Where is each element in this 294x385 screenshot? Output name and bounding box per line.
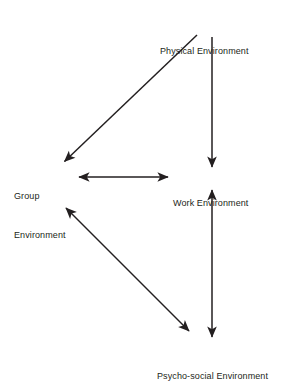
arrow-group-psycho: [66, 208, 189, 331]
node-psycho-social-environment: Psycho-social Environment: [157, 344, 268, 385]
node-physical-environment-line-1: Physical Environment: [160, 45, 249, 58]
node-psycho-social-environment-line-1: Psycho-social Environment: [157, 370, 268, 383]
node-work-environment-line-1: Work Environment: [173, 197, 248, 210]
node-work-environment: Work Environment: [173, 171, 248, 236]
node-group-environment-line-2: Environment: [14, 229, 66, 242]
node-physical-environment: Physical Environment: [160, 19, 249, 84]
node-group-environment: Group Environment: [14, 164, 66, 268]
node-group-environment-line-1: Group: [14, 190, 66, 203]
